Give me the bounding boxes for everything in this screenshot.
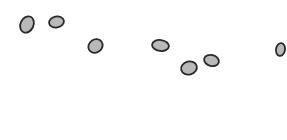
pebble-shape <box>86 36 106 55</box>
pebble-shape <box>48 15 65 28</box>
pebble-scene <box>0 0 287 140</box>
pebble-shape <box>275 42 286 56</box>
pebble-shape <box>18 14 37 35</box>
pebble-shape <box>151 39 169 52</box>
pebble-shape <box>203 53 220 68</box>
pebble-shape <box>180 60 199 77</box>
pebble-canvas <box>0 0 287 140</box>
